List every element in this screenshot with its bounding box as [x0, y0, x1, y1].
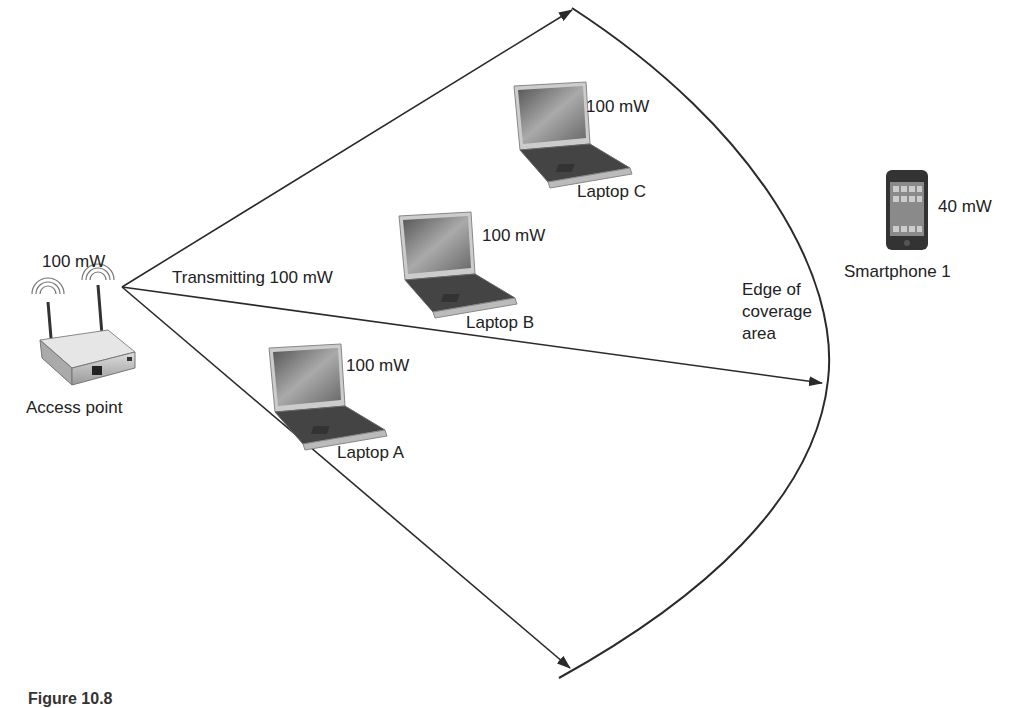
smartphone-power: 40 mW	[938, 197, 992, 217]
access-point-power: 100 mW	[42, 252, 105, 272]
transmitting-label: Transmitting 100 mW	[172, 268, 333, 288]
smartphone-label: Smartphone 1	[844, 262, 951, 282]
laptop-a-power: 100 mW	[346, 356, 409, 376]
laptop-b-power: 100 mW	[482, 226, 545, 246]
smartphone-icon	[886, 170, 928, 250]
access-point-icon	[32, 264, 135, 385]
coverage-label-line2: coverage	[742, 302, 812, 322]
laptop-a-label: Laptop A	[337, 443, 404, 463]
coverage-label-line3: area	[742, 324, 776, 344]
laptop-b-label: Laptop B	[466, 313, 534, 333]
laptop-c-power: 100 mW	[586, 97, 649, 117]
coverage-label-line1: Edge of	[742, 280, 801, 300]
figure-caption: Figure 10.8	[28, 690, 112, 708]
laptop-c-label: Laptop C	[577, 182, 646, 202]
access-point-label: Access point	[26, 398, 122, 418]
